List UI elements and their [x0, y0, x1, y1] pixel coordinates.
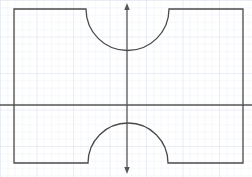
figure-container: [0, 0, 252, 177]
grid-overlay: [0, 0, 252, 177]
geometry-figure: [0, 0, 252, 177]
